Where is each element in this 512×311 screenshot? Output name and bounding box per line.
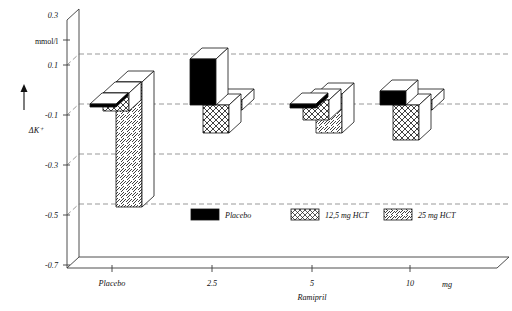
legend-label-12.5mg-hct: 12,5 mg HCT [325,211,369,220]
frame-top-left-diagonal [67,9,79,20]
gridline--0.1-diagonal [67,104,79,115]
legend-swatch-placebo [191,209,219,220]
bar-g2-s1-placebo [190,48,228,105]
legend-label-25mg-hct: 25 mg HCT [418,211,456,220]
x-category-label-2: 5 [310,279,314,288]
bar-front-face [380,91,406,105]
x-axis-title: Ramipril [296,293,327,302]
y-axis-title: ΔK⁺ [28,126,44,135]
bar-side-face [142,71,154,207]
y-tick-label-2: -0.1 [45,111,58,120]
bar-chart-3d: 0.3 0.1 -0.1 -0.3 -0.5 -0.7 mmol/l ΔK⁺ [0,0,512,311]
x-axis-ticks [112,265,410,272]
legend-label-placebo: Placebo [224,211,251,220]
bar-front-face [393,105,419,140]
legend: Placebo 12,5 mg HCT 25 mg HCT [191,209,456,220]
frame-floor-right-diagonal [497,257,509,268]
legend-item-12.5mg-hct: 12,5 mg HCT [291,209,369,220]
legend-swatch-25mg-hct [384,209,412,220]
legend-item-placebo: Placebo [191,209,251,220]
gridline--0.3-diagonal [67,154,79,165]
bar-front-face [290,104,316,108]
y-tick-label-0: 0.3 [48,11,58,20]
y-axis-arrow-icon [21,84,28,110]
y-tick-label-5: -0.7 [45,261,59,270]
bar-front-face [190,59,216,105]
chart-figure: 0.3 0.1 -0.1 -0.3 -0.5 -0.7 mmol/l ΔK⁺ [0,0,512,311]
y-tick-label-4: -0.5 [45,211,58,220]
y-tick-label-3: -0.3 [45,161,58,170]
x-category-label-3: 10 [406,279,414,288]
x-category-label-0: Placebo [98,279,126,288]
x-axis-unit-label: mg [442,280,452,289]
gridline-0.1-diagonal [67,54,79,65]
y-tick-label-1: 0.1 [48,61,58,70]
x-category-label-1: 2.5 [207,279,217,288]
y-axis-unit-label: mmol/l [35,37,59,46]
legend-item-25mg-hct: 25 mg HCT [384,209,456,220]
gridline--0.5-diagonal [67,204,79,215]
bar-front-face [203,105,229,133]
y-axis-ticks [63,40,70,265]
bar-front-face [90,104,116,107]
legend-swatch-12.5mg-hct [291,209,319,220]
frame-floor-left-diagonal [67,257,79,268]
